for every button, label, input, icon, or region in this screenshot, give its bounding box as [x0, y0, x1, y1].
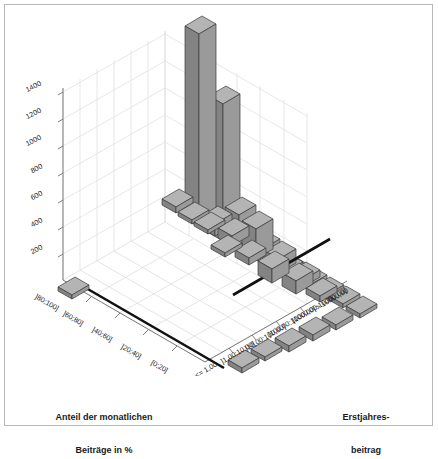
category-axis-title-line1: Erstjahres-: [318, 412, 414, 423]
category-axis-title-line2: beitrag: [318, 445, 414, 456]
category-axis-title: Erstjahres- beitrag: [318, 390, 414, 459]
depth-axis-title: Anteil der monatlichen Beiträge in %: [24, 390, 184, 459]
z-axis: [58, 88, 63, 280]
depth-axis-title-line2: Beiträge in %: [24, 445, 184, 456]
bar-group-row-0-20: [228, 296, 377, 373]
back-wall-grid: [63, 31, 165, 280]
depth-axis-title-line1: Anteil der monatlichen: [24, 412, 184, 423]
bar: [58, 277, 89, 299]
